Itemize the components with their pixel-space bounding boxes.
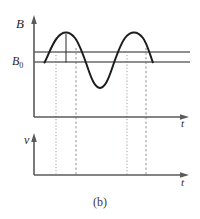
figure-canvas bbox=[0, 0, 200, 219]
upper-x-axis-label: t bbox=[181, 118, 184, 129]
upper-y-axis-label: B bbox=[16, 17, 24, 30]
upper-panel-group bbox=[31, 15, 190, 120]
b0-level-label: B0 bbox=[12, 55, 23, 70]
magnetic-field-curve bbox=[45, 33, 153, 89]
lower-y-axis-arrow-icon bbox=[31, 133, 37, 142]
lower-y-axis-label: ν bbox=[24, 134, 29, 146]
figure-caption: (b) bbox=[0, 196, 200, 208]
figure-b-container: B B0 ν t t (b) bbox=[0, 0, 200, 219]
upper-y-axis-arrow-icon bbox=[31, 15, 37, 24]
guide-lines-group bbox=[56, 48, 146, 175]
lower-x-axis-label: t bbox=[181, 177, 184, 188]
b0-level-label-subscript: 0 bbox=[19, 61, 23, 70]
lower-panel-group bbox=[31, 133, 189, 178]
